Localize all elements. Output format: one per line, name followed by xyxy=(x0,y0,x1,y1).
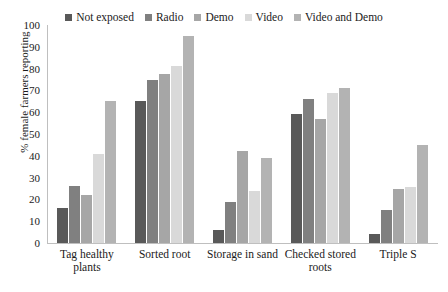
bar[interactable] xyxy=(393,189,404,244)
bar-group xyxy=(48,25,126,243)
legend-swatch-icon xyxy=(194,14,201,21)
bar[interactable] xyxy=(81,195,92,243)
bar[interactable] xyxy=(135,101,146,243)
bar[interactable] xyxy=(339,88,350,243)
bar[interactable] xyxy=(327,93,338,243)
bar-groups xyxy=(48,25,437,243)
y-axis-tick-label: 40 xyxy=(29,150,40,161)
bar[interactable] xyxy=(93,154,104,243)
bar[interactable] xyxy=(417,145,428,243)
y-axis-tick-label: 0 xyxy=(35,238,41,249)
legend-item[interactable]: Not exposed xyxy=(65,11,134,23)
bar[interactable] xyxy=(213,230,224,243)
y-axis-tick-label: 70 xyxy=(29,85,40,96)
y-axis-tick-label: 80 xyxy=(29,63,40,74)
y-axis-tick-label: 10 xyxy=(29,216,40,227)
bar[interactable] xyxy=(171,66,182,243)
y-axis-tick-label: 20 xyxy=(29,194,40,205)
y-axis-tick-label: 50 xyxy=(29,129,40,140)
bar[interactable] xyxy=(159,74,170,243)
bar-group xyxy=(359,25,437,243)
bar[interactable] xyxy=(291,114,302,243)
x-axis-category-label: Sorted root xyxy=(126,248,204,274)
bar-group xyxy=(281,25,359,243)
legend-item-label: Video and Demo xyxy=(305,11,383,23)
bar-group xyxy=(126,25,204,243)
y-axis-tick-label: 100 xyxy=(24,20,41,31)
legend-swatch-icon xyxy=(245,14,252,21)
bar-group xyxy=(204,25,282,243)
x-axis-category-labels: Tag healthy plantsSorted rootStorage in … xyxy=(48,248,437,274)
legend-item-label: Demo xyxy=(205,11,233,23)
bar[interactable] xyxy=(381,210,392,243)
bar[interactable] xyxy=(369,234,380,243)
y-axis-tick-label: 60 xyxy=(29,107,40,118)
bar[interactable] xyxy=(303,99,314,243)
bar[interactable] xyxy=(69,186,80,243)
legend-item-label: Not exposed xyxy=(76,11,134,23)
bar[interactable] xyxy=(237,151,248,243)
bar[interactable] xyxy=(315,119,326,243)
legend-item[interactable]: Video xyxy=(245,11,283,23)
x-axis-category-label: Storage in sand xyxy=(204,248,282,274)
x-axis-category-label: Checked stored roots xyxy=(281,248,359,274)
legend-swatch-icon xyxy=(294,14,301,21)
bar[interactable] xyxy=(147,80,158,244)
legend-item-label: Radio xyxy=(156,11,183,23)
y-axis-tick-label: 90 xyxy=(29,41,40,52)
legend-item[interactable]: Radio xyxy=(145,11,183,23)
bar[interactable] xyxy=(105,101,116,243)
x-axis-category-label: Tag healthy plants xyxy=(48,248,126,274)
bar[interactable] xyxy=(261,158,272,243)
bar[interactable] xyxy=(249,191,260,243)
legend-swatch-icon xyxy=(65,14,72,21)
legend-item[interactable]: Video and Demo xyxy=(294,11,383,23)
bar[interactable] xyxy=(183,36,194,243)
bar[interactable] xyxy=(225,202,236,243)
legend-item[interactable]: Demo xyxy=(194,11,233,23)
bar[interactable] xyxy=(57,208,68,243)
y-axis-tick-label: 30 xyxy=(29,172,40,183)
bar[interactable] xyxy=(405,187,416,243)
y-axis-tick-labels: 0102030405060708090100 xyxy=(0,25,44,243)
legend-item-label: Video xyxy=(256,11,283,23)
x-axis-category-label: Triple S xyxy=(359,248,437,274)
chart-legend: Not exposedRadioDemoVideoVideo and Demo xyxy=(0,11,448,23)
legend-swatch-icon xyxy=(145,14,152,21)
bar-chart: Not exposedRadioDemoVideoVideo and Demo … xyxy=(0,0,448,292)
